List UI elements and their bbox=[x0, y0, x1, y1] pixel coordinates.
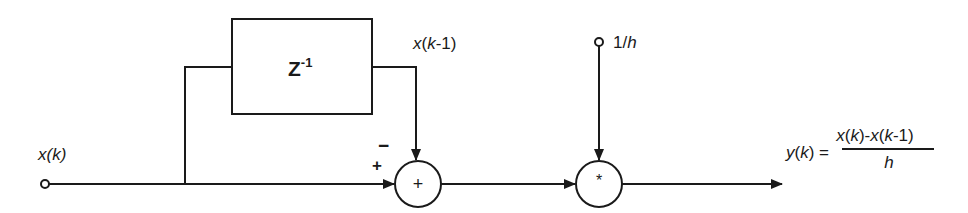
delayed-label: x(k-1) bbox=[412, 34, 456, 53]
input-terminal bbox=[41, 180, 49, 188]
sum-node-symbol: + bbox=[413, 174, 424, 194]
input-label: x(k) bbox=[37, 145, 66, 164]
gain-label: 1/h bbox=[613, 33, 637, 52]
output-equation-numerator: x(k)-x(k-1) bbox=[835, 126, 913, 145]
minus-sign: − bbox=[378, 135, 389, 156]
block-diagram: x(k) Z-1 x(k-1) + + − 1/h * y(k) = x(k)-… bbox=[0, 0, 968, 213]
gain-terminal bbox=[595, 38, 603, 46]
multiply-node-symbol: * bbox=[596, 172, 602, 189]
output-equation-denominator: h bbox=[884, 153, 893, 172]
plus-sign: + bbox=[372, 156, 382, 175]
output-equation-lhs: y(k) = bbox=[785, 143, 829, 162]
delay-branch-line bbox=[185, 67, 232, 184]
